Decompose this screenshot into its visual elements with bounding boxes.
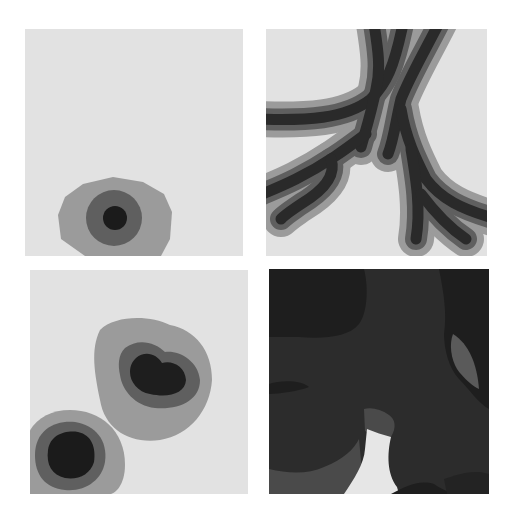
branching-structure-field-graphic xyxy=(266,29,487,256)
two-blob-field-graphic xyxy=(30,270,248,494)
single-blob-field-graphic xyxy=(25,29,243,256)
panel-bottom-right: Mostly dark overlapping regions with a l… xyxy=(269,269,489,494)
panel-top-left: Single concentric blob near bottom-left xyxy=(25,29,243,256)
dark-regions-field-graphic xyxy=(269,269,489,494)
panel-bottom-left: Two concentric blobs (kidney-shaped and … xyxy=(30,270,248,494)
panel-top-right: Branching vessel-like structure with con… xyxy=(266,29,487,256)
